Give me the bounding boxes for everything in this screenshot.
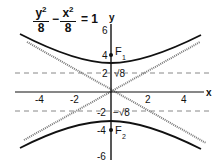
x-tick: 2 [145,94,151,105]
y-axis-label: y [109,12,115,23]
focus-f2-label: F [115,124,122,136]
y-tick: -4 [97,125,106,136]
x-tick: -2 [70,94,79,105]
vertex-top-label: √8 [114,68,125,79]
x-tick: -4 [35,94,44,105]
focus-f2-point [109,128,113,132]
focus-f2-subscript: 2 [122,133,126,140]
y-tick: 6 [102,25,108,36]
x-axis-label: x [206,87,212,98]
focus-f1-label: F [115,45,122,57]
vertex-bottom-label: −√8 [113,107,130,118]
y-tick: -2 [97,107,106,118]
focus-f1-point [109,53,113,57]
y-tick: 2 [102,68,108,79]
x-tick: 4 [181,94,187,105]
y-tick: 4 [102,50,108,61]
focus-f1-subscript: 1 [122,54,126,61]
hyperbola-graph: x y -4 -2 2 4 6 4 2 -2 -4 -6 √8 −√8 F 1 … [0,0,220,167]
y-tick: -6 [97,151,106,162]
